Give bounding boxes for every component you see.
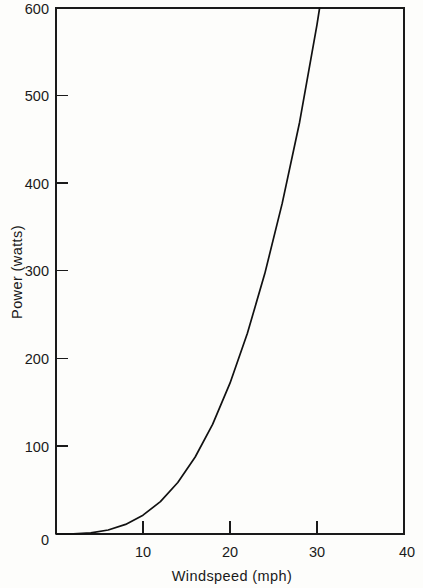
y-tick-label-100: 100 <box>25 439 49 455</box>
y-axis-ticks <box>56 95 68 446</box>
y-tick-labels: 600 500 400 300 200 100 0 <box>25 1 49 548</box>
chart-svg: 600 500 400 300 200 100 0 10 20 30 40 Wi… <box>0 0 423 588</box>
power-vs-windspeed-figure: 600 500 400 300 200 100 0 10 20 30 40 Wi… <box>0 0 423 588</box>
power-curve <box>56 8 320 534</box>
y-axis-title: Power (watts) <box>9 225 25 319</box>
plot-frame <box>56 8 404 534</box>
x-tick-label-10: 10 <box>135 544 151 560</box>
x-axis-title: Windspeed (mph) <box>172 568 292 584</box>
y-tick-label-200: 200 <box>25 351 49 367</box>
x-tick-label-40: 40 <box>399 544 415 560</box>
x-tick-label-30: 30 <box>309 544 325 560</box>
x-tick-labels: 10 20 30 40 <box>135 544 415 560</box>
y-tick-label-500: 500 <box>25 88 49 104</box>
y-tick-label-300: 300 <box>25 263 49 279</box>
y-tick-label-600: 600 <box>25 1 49 17</box>
y-tick-label-400: 400 <box>25 176 49 192</box>
x-tick-label-20: 20 <box>222 544 238 560</box>
y-tick-label-0: 0 <box>41 532 49 548</box>
x-axis-ticks <box>143 521 317 534</box>
chart-page: 600 500 400 300 200 100 0 10 20 30 40 Wi… <box>0 0 423 588</box>
